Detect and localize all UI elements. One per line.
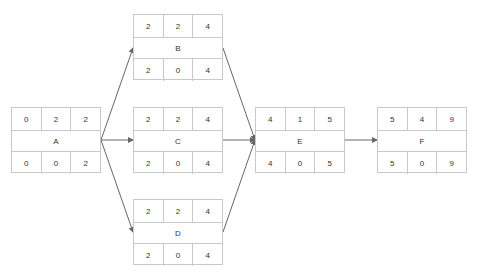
node-a-label: A (12, 131, 100, 151)
node-c-duration: 2 (163, 108, 193, 130)
node-d-duration: 2 (163, 200, 193, 222)
edge-b-e (223, 48, 255, 140)
node-d-ef: 4 (192, 200, 222, 222)
node-c-label: C (134, 131, 222, 151)
node-e-es: 4 (256, 108, 285, 130)
node-c-lf: 4 (192, 152, 222, 174)
node-e-ef: 5 (314, 108, 344, 130)
node-b[interactable]: 224 B 204 (133, 14, 223, 80)
edge-d-e (223, 140, 255, 232)
node-a-duration: 2 (41, 108, 71, 130)
node-d-lf: 4 (192, 244, 222, 266)
node-c-ef: 4 (192, 108, 222, 130)
node-f-es: 5 (378, 108, 407, 130)
node-a-es: 0 (12, 108, 41, 130)
node-a-ls: 0 (12, 152, 41, 174)
node-b-ef: 4 (192, 15, 222, 37)
node-b-lf: 4 (192, 59, 222, 81)
node-a-lf: 2 (70, 152, 100, 174)
node-f-ls: 5 (378, 152, 407, 174)
node-d-es: 2 (134, 200, 163, 222)
node-c-es: 2 (134, 108, 163, 130)
node-f[interactable]: 549 F 509 (377, 107, 467, 173)
edge-a-d (101, 140, 133, 232)
node-e-ls: 4 (256, 152, 285, 174)
edge-a-b (101, 48, 133, 140)
node-c-float: 0 (163, 152, 193, 174)
node-f-label: F (378, 131, 466, 151)
node-b-float: 0 (163, 59, 193, 81)
node-e-label: E (256, 131, 344, 151)
node-e-float: 0 (285, 152, 315, 174)
node-f-duration: 4 (407, 108, 437, 130)
node-f-float: 0 (407, 152, 437, 174)
node-a[interactable]: 022 A 002 (11, 107, 101, 173)
node-f-ef: 9 (436, 108, 466, 130)
node-d-ls: 2 (134, 244, 163, 266)
node-d[interactable]: 224 D 204 (133, 199, 223, 265)
node-a-float: 0 (41, 152, 71, 174)
node-b-label: B (134, 38, 222, 58)
node-c[interactable]: 224 C 204 (133, 107, 223, 173)
node-e-lf: 5 (314, 152, 344, 174)
node-e-duration: 1 (285, 108, 315, 130)
node-d-label: D (134, 223, 222, 243)
node-d-float: 0 (163, 244, 193, 266)
node-c-ls: 2 (134, 152, 163, 174)
node-e[interactable]: 415 E 405 (255, 107, 345, 173)
node-b-ls: 2 (134, 59, 163, 81)
node-a-ef: 2 (70, 108, 100, 130)
node-b-es: 2 (134, 15, 163, 37)
node-b-duration: 2 (163, 15, 193, 37)
node-f-lf: 9 (436, 152, 466, 174)
